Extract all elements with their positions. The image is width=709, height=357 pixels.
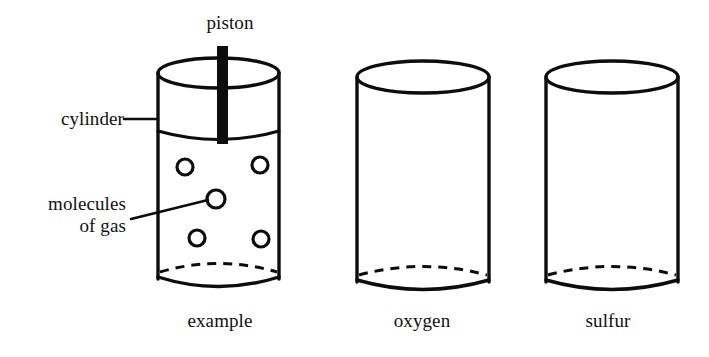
piston-rod [217,46,228,144]
cylinder-oxygen-hidden-base-edge [359,267,487,276]
molecules-of-gas-label: molecules of gas [0,193,126,238]
cylinder-sulfur-hidden-base-edge [548,267,676,276]
piston-label: piston [170,12,290,34]
diagram-canvas: piston cylinder molecules of gas example… [0,0,709,357]
cylinder-oxygen [357,61,489,290]
cylinder-sulfur-top-rim [546,61,678,93]
molecules-label-line-2: of gas [0,215,126,237]
cylinder-oxygen-base-front-edge [357,280,489,290]
molecules-label-line-1: molecules [0,193,126,215]
cylinder-sulfur-base-front-edge [546,280,678,290]
cylinder-example [158,46,279,287]
gas-molecules-group [177,157,269,247]
molecule [253,231,269,247]
molecules-leader-line [131,200,208,219]
caption-sulfur: sulfur [548,310,668,332]
cylinder-example-hidden-base-edge [160,264,277,273]
molecule [189,230,205,246]
caption-oxygen: oxygen [362,310,482,332]
cylinder-sulfur [546,61,678,290]
caption-example: example [160,310,280,332]
cylinder-oxygen-top-rim [357,61,489,93]
molecule [177,159,193,175]
cylinder-example-base-front-edge [158,277,279,287]
molecule [252,157,268,173]
molecule [207,190,225,208]
cylinders-diagram [0,0,709,357]
cylinder-label: cylinder [0,108,124,130]
